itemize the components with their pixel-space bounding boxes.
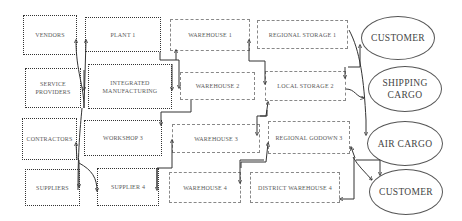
node-label: REGIONAL STORAGE 1 xyxy=(269,31,337,39)
edge-to-district4 xyxy=(340,158,354,199)
node-label: PLANT 1 xyxy=(110,31,135,39)
node-regional-godown-3: REGIONAL GODOWN 3 xyxy=(268,121,350,154)
node-label: DISTRICT WAREHOUSE 4 xyxy=(258,184,332,192)
node-label: SERVICE PROVIDERS xyxy=(35,80,70,96)
node-label: CONTRACTORS xyxy=(26,135,72,143)
node-label: LOCAL STORAGE 2 xyxy=(277,82,333,90)
edge-wh1-to-wh2 xyxy=(176,60,179,88)
edge-godown-to-customer2 xyxy=(353,157,372,180)
edge-godown-loop xyxy=(351,147,355,158)
node-regional-storage-1: REGIONAL STORAGE 1 xyxy=(257,20,348,49)
node-label: CUSTOMER xyxy=(379,186,433,198)
node-label: INTEGRATED MANUFACTURING xyxy=(103,79,158,95)
node-integrated-manufacturing: INTEGRATED MANUFACTURING xyxy=(88,64,172,109)
node-label: AIR CARGO xyxy=(378,138,433,150)
node-label: WAREHOUSE 2 xyxy=(196,82,240,90)
edge-ls2-to-shipping xyxy=(346,89,364,98)
node-workshop-3: WORKSHOP 3 xyxy=(84,120,162,156)
node-supplier-4: SUPPLIER 4 xyxy=(97,168,159,206)
node-label: SHIPPING CARGO xyxy=(382,77,427,101)
node-contractors: CONTRACTORS xyxy=(22,118,77,160)
node-warehouse-4: WAREHOUSE 4 xyxy=(169,172,241,203)
edge-ls2-from-below xyxy=(260,102,268,116)
node-label: WAREHOUSE 3 xyxy=(194,135,238,143)
node-local-storage-2: LOCAL STORAGE 2 xyxy=(265,71,346,101)
node-label: VENDORS xyxy=(35,31,65,39)
edge-to-supplier4 xyxy=(79,163,97,191)
node-warehouse-1: WAREHOUSE 1 xyxy=(170,19,250,51)
node-warehouse-2: WAREHOUSE 2 xyxy=(180,72,255,100)
node-label: SUPPLIER 4 xyxy=(111,183,145,191)
edge-cust2-to-godown xyxy=(356,160,380,175)
node-air-cargo: AIR CARGO xyxy=(367,121,443,166)
node-label: WAREHOUSE 4 xyxy=(183,184,227,192)
node-customer-top: CUSTOMER xyxy=(361,16,435,60)
node-vendors: VENDORS xyxy=(23,15,77,55)
node-warehouse-3: WAREHOUSE 3 xyxy=(172,124,260,153)
node-label: WORKSHOP 3 xyxy=(103,134,143,142)
node-customer-bottom: CUSTOMER xyxy=(369,169,443,215)
node-suppliers: SUPPLIERS xyxy=(25,169,80,206)
edge-plant1-to-wh1 xyxy=(160,50,176,60)
node-plant-1: PLANT 1 xyxy=(85,17,161,52)
node-label: WAREHOUSE 1 xyxy=(188,31,232,39)
node-label: CUSTOMER xyxy=(371,32,425,44)
node-shipping-cargo: SHIPPING CARGO xyxy=(368,66,442,112)
edge-rs1-to-customer xyxy=(348,45,360,67)
node-label: SUPPLIERS xyxy=(36,184,69,192)
node-district-warehouse-4: DISTRICT WAREHOUSE 4 xyxy=(250,172,340,203)
node-label: REGIONAL GODOWN 3 xyxy=(275,134,342,142)
node-service-providers: SERVICE PROVIDERS xyxy=(25,68,81,108)
